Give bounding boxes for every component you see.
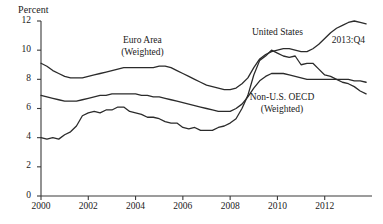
- unemployment-rate-line-chart: Percent 024681012 2000200220042006200820…: [0, 0, 383, 224]
- series-line-2: [41, 50, 366, 139]
- y-tick-label: 0: [9, 190, 31, 200]
- x-tick-label: 2012: [303, 201, 347, 211]
- series-label-line: Non-U.S. OECD: [250, 92, 315, 104]
- plot-area: [0, 0, 383, 224]
- series-label-line: (Weighted): [250, 104, 315, 116]
- y-axis-ticks: [37, 21, 41, 196]
- data-series-lines: [41, 21, 366, 139]
- series-label-0: Euro Area(Weighted): [121, 35, 164, 58]
- series-label-1: Non-U.S. OECD(Weighted): [250, 92, 315, 115]
- series-label-2: United States: [252, 27, 303, 39]
- series-label-line: (Weighted): [121, 47, 164, 59]
- x-tick-label: 2006: [161, 201, 205, 211]
- x-tick-label: 2010: [255, 201, 299, 211]
- annotation-label: 2013:Q4: [332, 35, 365, 45]
- y-tick-label: 2: [9, 160, 31, 170]
- series-label-line: United States: [252, 27, 303, 39]
- y-tick-label: 4: [9, 131, 31, 141]
- series-line-1: [41, 74, 366, 112]
- x-axis-ticks: [41, 196, 325, 200]
- y-tick-label: 6: [9, 102, 31, 112]
- x-tick-label: 2008: [208, 201, 252, 211]
- x-tick-label: 2004: [114, 201, 158, 211]
- x-tick-label: 2000: [19, 201, 63, 211]
- series-label-line: Euro Area: [121, 35, 164, 47]
- y-tick-label: 8: [9, 73, 31, 83]
- y-tick-label: 10: [9, 44, 31, 54]
- x-tick-label: 2002: [66, 201, 110, 211]
- y-tick-label: 12: [9, 15, 31, 25]
